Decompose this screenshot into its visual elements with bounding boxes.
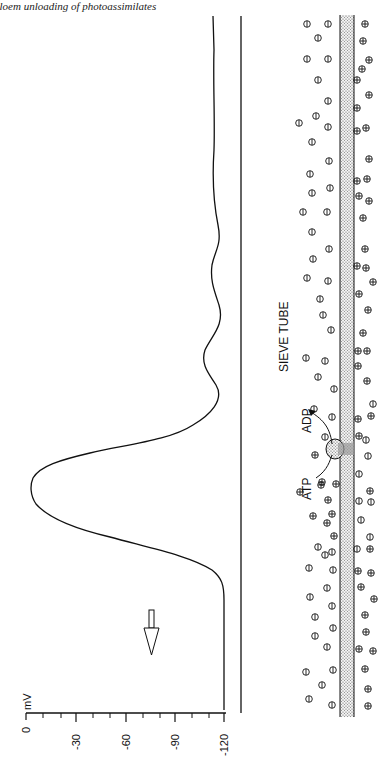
figure: 0 -30 -60 -90 -120 mV ATP ADP SIEVE TUBE [0, 0, 381, 760]
tick-label-minus60: -60 [120, 734, 132, 750]
tick-label-minus30: -30 [70, 734, 82, 750]
atp-label: ATP [300, 478, 314, 500]
axis-unit-label: mV [21, 693, 33, 710]
stimulus-arrow-icon [144, 610, 159, 655]
membrane-potential-trace [31, 16, 224, 710]
anion-cluster [296, 21, 338, 709]
tick-label-minus120: -120 [218, 734, 230, 756]
tick-label-minus90: -90 [169, 734, 181, 750]
cation-cluster [297, 21, 378, 710]
anion-cluster-right [354, 401, 377, 553]
sieve-tube-title: SIEVE TUBE [277, 302, 291, 372]
sieve-tube-membrane [340, 15, 354, 717]
voltage-axis: 0 -30 -60 -90 -120 mV [20, 693, 230, 756]
tick-label-0: 0 [20, 727, 32, 733]
